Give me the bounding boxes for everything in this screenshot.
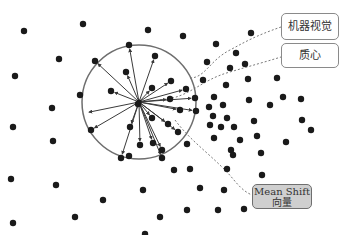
data-point bbox=[56, 56, 62, 62]
data-point bbox=[150, 140, 156, 146]
data-point bbox=[248, 30, 254, 36]
data-point bbox=[159, 155, 165, 161]
data-point bbox=[187, 166, 193, 172]
data-point bbox=[241, 206, 247, 212]
data-point bbox=[175, 129, 181, 135]
data-point bbox=[230, 152, 236, 158]
data-point bbox=[251, 118, 257, 124]
data-point bbox=[142, 231, 148, 235]
data-point bbox=[280, 94, 286, 100]
data-point bbox=[126, 153, 132, 159]
label-centroid: 质心 bbox=[281, 43, 339, 68]
label-machine-vision-text: 机器视觉 bbox=[288, 21, 332, 32]
data-point bbox=[12, 73, 18, 79]
data-point bbox=[246, 97, 252, 103]
data-point bbox=[213, 41, 219, 47]
mean-shift-diagram: 机器视觉 质心 Mean Shift 向量 bbox=[0, 0, 348, 235]
data-point bbox=[211, 94, 217, 100]
data-point bbox=[200, 77, 206, 83]
shift-vector bbox=[139, 102, 140, 141]
data-point bbox=[299, 117, 305, 123]
data-point bbox=[298, 96, 304, 102]
data-point bbox=[224, 115, 230, 121]
data-point bbox=[167, 96, 173, 102]
data-point bbox=[108, 88, 114, 94]
window-center-point bbox=[137, 100, 142, 105]
data-point bbox=[224, 166, 230, 172]
shift-vector bbox=[139, 60, 154, 102]
data-point bbox=[171, 167, 177, 173]
data-point bbox=[215, 207, 221, 213]
label-centroid-text: 质心 bbox=[299, 50, 321, 61]
label-mean-shift-vector: Mean Shift 向量 bbox=[252, 184, 312, 209]
data-point bbox=[127, 124, 133, 130]
data-point bbox=[21, 28, 27, 34]
data-point bbox=[8, 176, 14, 182]
data-point bbox=[204, 59, 210, 65]
data-point bbox=[227, 65, 233, 71]
data-point bbox=[123, 69, 129, 75]
shift-vector bbox=[139, 102, 160, 146]
data-point bbox=[126, 42, 132, 48]
data-point bbox=[197, 185, 203, 191]
data-point bbox=[137, 142, 143, 148]
data-point bbox=[168, 78, 174, 84]
data-point bbox=[207, 122, 213, 128]
data-point bbox=[206, 104, 212, 110]
data-point bbox=[245, 76, 251, 82]
data-point bbox=[237, 137, 243, 143]
data-point bbox=[10, 220, 16, 226]
data-point bbox=[231, 124, 237, 130]
data-point bbox=[184, 207, 190, 213]
data-point bbox=[157, 214, 163, 220]
data-point bbox=[223, 82, 229, 88]
data-point bbox=[308, 127, 314, 133]
data-point bbox=[159, 147, 165, 153]
leader-line-centroid bbox=[160, 57, 281, 100]
label-machine-vision: 机器视觉 bbox=[281, 13, 339, 40]
data-point bbox=[72, 214, 78, 220]
data-point bbox=[283, 139, 289, 145]
data-point bbox=[180, 33, 186, 39]
data-point bbox=[233, 50, 239, 56]
data-point bbox=[192, 95, 198, 101]
label-mean-shift-line2: 向量 bbox=[272, 197, 292, 208]
data-point bbox=[118, 155, 124, 161]
data-point bbox=[210, 113, 216, 119]
data-point bbox=[259, 172, 265, 178]
data-point bbox=[274, 75, 280, 81]
data-point bbox=[220, 102, 226, 108]
data-point bbox=[53, 182, 59, 188]
shift-vector bbox=[89, 102, 139, 112]
data-point bbox=[149, 85, 155, 91]
data-point bbox=[100, 197, 106, 203]
data-point bbox=[152, 53, 158, 59]
leader-line-mean-shift bbox=[175, 120, 252, 195]
data-point bbox=[221, 187, 227, 193]
data-point bbox=[50, 138, 56, 144]
data-point bbox=[258, 150, 264, 156]
data-point bbox=[242, 61, 248, 67]
data-point bbox=[218, 124, 224, 130]
data-point bbox=[165, 121, 171, 127]
data-point bbox=[88, 127, 94, 133]
data-point bbox=[177, 107, 183, 113]
data-point bbox=[10, 124, 16, 130]
data-point bbox=[184, 141, 190, 147]
data-point bbox=[92, 58, 98, 64]
data-point bbox=[183, 86, 189, 92]
data-point bbox=[140, 187, 146, 193]
data-point bbox=[267, 102, 273, 108]
data-point bbox=[211, 135, 217, 141]
data-point bbox=[254, 133, 260, 139]
data-point bbox=[49, 105, 55, 111]
shift-vector bbox=[139, 102, 192, 110]
data-point bbox=[149, 115, 155, 121]
data-point bbox=[80, 21, 86, 27]
data-point bbox=[193, 108, 199, 114]
data-point bbox=[145, 27, 151, 33]
data-point bbox=[77, 92, 83, 98]
label-mean-shift-line1: Mean Shift bbox=[254, 186, 310, 197]
